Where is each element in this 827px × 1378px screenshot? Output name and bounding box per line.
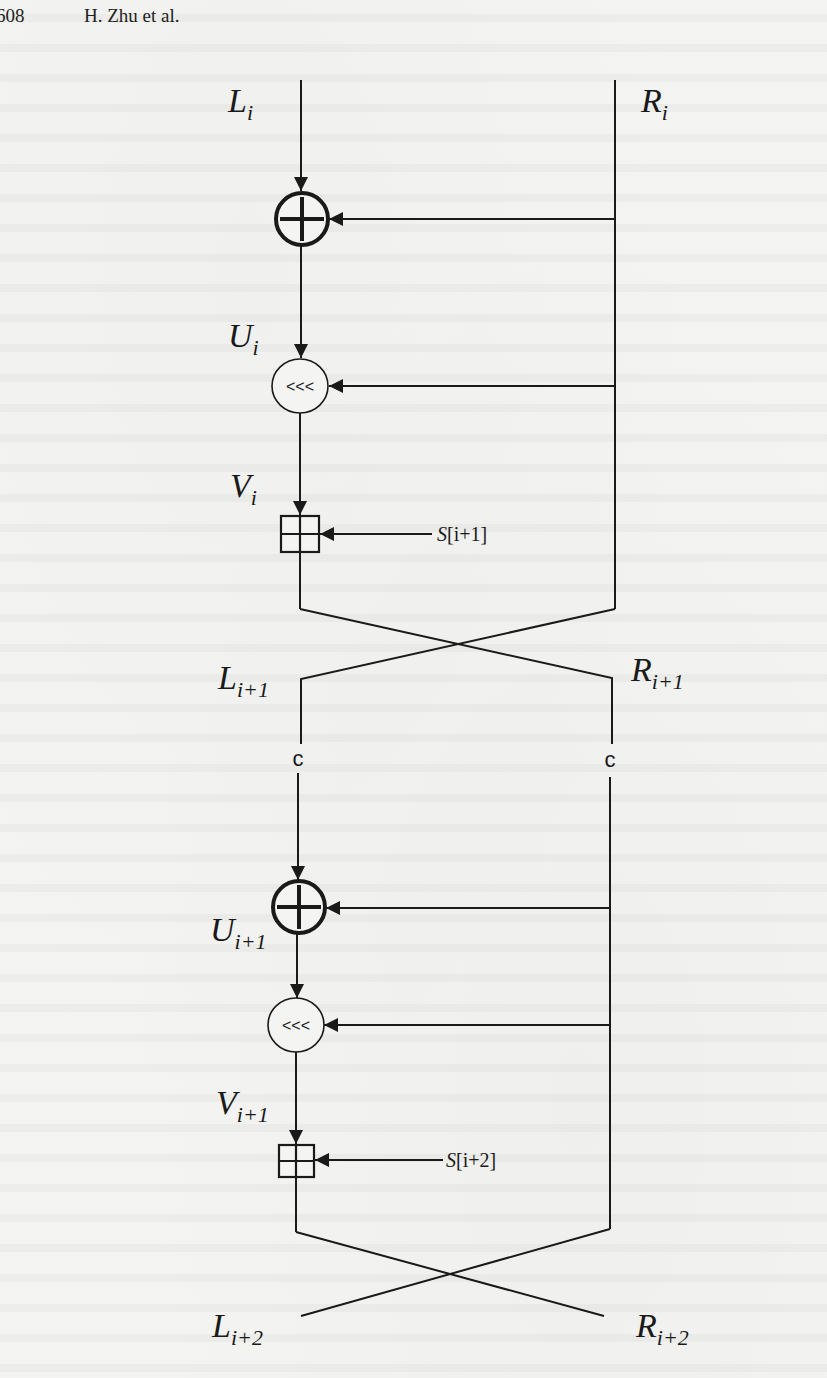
label-subkey-S-i+1: S[i+1] (437, 523, 487, 545)
label-transform-c-left: c (293, 746, 304, 771)
paper-page: 608 H. Zhu et al. (0, 0, 827, 1378)
label-R-i+1: Ri+1 (630, 651, 684, 694)
label-transform-c-right: c (605, 747, 616, 772)
label-L-i: Li (227, 82, 253, 125)
label-L-i+2: Li+2 (211, 1307, 263, 1350)
rotate-left-icon: <<< (272, 359, 328, 413)
rotate-left-icon: <<< (268, 998, 324, 1052)
label-U-i+1: Ui+1 (210, 911, 267, 954)
label-subkey-S-i+2: S[i+2] (446, 1149, 496, 1171)
label-L-i+1: Li+1 (217, 659, 269, 702)
round2-wires (296, 773, 610, 1316)
modular-add-icon (281, 516, 319, 552)
label-V-i+1: Vi+1 (216, 1084, 269, 1127)
label-V-i: Vi (230, 467, 257, 510)
round1-wires (300, 80, 615, 744)
xor-icon (276, 193, 328, 245)
label-R-i+2: Ri+2 (635, 1307, 689, 1350)
svg-text:<<<: <<< (286, 378, 314, 395)
svg-text:<<<: <<< (282, 1017, 310, 1034)
xor-icon (273, 881, 325, 933)
label-U-i: Ui (228, 317, 259, 360)
label-R-i: Ri (640, 82, 668, 125)
modular-add-icon (279, 1145, 314, 1177)
cipher-round-diagram: <<< (0, 0, 827, 1378)
